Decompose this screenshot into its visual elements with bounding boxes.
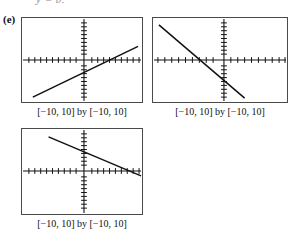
- plot-area-2: [153, 18, 287, 102]
- calculator-screen-1: [21, 17, 143, 103]
- graph-svg-3: [22, 129, 142, 214]
- graph-svg-2: [153, 18, 287, 102]
- calculator-screen-2: [152, 17, 288, 103]
- plot-area-3: [22, 129, 142, 214]
- panel-3-caption: [−10, 10] by [−10, 10]: [21, 218, 143, 229]
- graph-svg-1: [22, 18, 142, 102]
- part-label-e: (e): [3, 13, 15, 25]
- clipped-formula-fragment: y = b.: [36, 0, 65, 5]
- panel-1-caption: [−10, 10] by [−10, 10]: [21, 106, 143, 117]
- curve-3: [49, 137, 141, 176]
- calculator-screen-3: [21, 128, 143, 215]
- panel-2-caption: [−10, 10] by [−10, 10]: [152, 106, 288, 117]
- plot-area-1: [22, 18, 142, 102]
